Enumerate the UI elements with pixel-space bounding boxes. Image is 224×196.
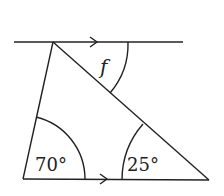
label-f: f: [98, 55, 111, 79]
angle-f-arc: [110, 42, 128, 93]
label-70: 70°: [35, 154, 67, 175]
geometry-diagram: f 70° 25°: [0, 0, 224, 196]
label-25: 25°: [127, 154, 159, 175]
bottom-parallel-line: [23, 179, 209, 180]
